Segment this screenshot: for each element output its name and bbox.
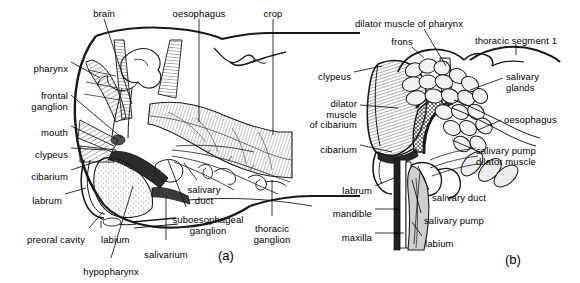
leader-frontal-ganglion bbox=[71, 95, 122, 138]
label-cibarium: cibarium bbox=[31, 172, 68, 183]
panel-tag-a: (a) bbox=[218, 248, 234, 263]
label-clypeus-b: clypeus bbox=[318, 72, 351, 83]
leader-frons bbox=[412, 47, 424, 58]
label-labrum: labrum bbox=[32, 196, 62, 207]
leader-mouth bbox=[71, 126, 114, 146]
leader-oesophagus-b bbox=[478, 120, 501, 130]
label-crop: crop bbox=[183, 9, 363, 20]
label-frontal-ganglion: frontal ganglion bbox=[31, 91, 68, 112]
panel-tag-b: (b) bbox=[505, 252, 521, 267]
leader-pharynx bbox=[71, 62, 100, 78]
leader-dilator-muscle-of-cibarium bbox=[360, 105, 398, 108]
label-salivary-duct: salivary duct bbox=[114, 185, 294, 206]
label-cibarium-b: cibarium bbox=[320, 145, 357, 156]
label-salivary-glands: salivary glands bbox=[506, 72, 539, 93]
leader-clypeus bbox=[71, 148, 106, 150]
label-labium-b: labium bbox=[425, 239, 454, 250]
label-maxilla: maxilla bbox=[342, 233, 372, 244]
label-hypopharynx: hypopharynx bbox=[21, 267, 201, 278]
label-salivary-duct-b: salivary duct bbox=[432, 193, 486, 204]
label-mandible: mandible bbox=[333, 209, 372, 220]
figure-root: brainoesophaguscroppharynxfrontal gangli… bbox=[0, 0, 580, 283]
label-oesophagus-b: oesophagus bbox=[504, 115, 557, 126]
leader-labrum-b bbox=[375, 178, 394, 186]
leader-dilator-muscle-of-pharynx bbox=[424, 29, 446, 66]
label-labrum-b: labrum bbox=[342, 186, 372, 197]
label-salivary-pump: salivary pump bbox=[424, 216, 484, 227]
leader-salivary-duct-b bbox=[418, 166, 429, 190]
label-clypeus: clypeus bbox=[35, 150, 68, 161]
label-dilator-muscle-of-cibarium: dilator muscle of cibarium bbox=[309, 99, 357, 131]
label-salivary-pump-dilator-muscle: salivary pump dilator muscle bbox=[476, 146, 536, 167]
leader-clypeus-b bbox=[354, 66, 382, 72]
leader-salivary-duct-a bbox=[184, 163, 197, 180]
label-preoral-cavity: preoral cavity bbox=[27, 235, 85, 246]
leader-cibarium bbox=[71, 157, 110, 170]
leader-salivary-pump bbox=[412, 180, 421, 213]
leader-labrum bbox=[65, 188, 86, 194]
leader-cibarium-b bbox=[360, 145, 392, 152]
leader-salivary-pump-dilator-muscle bbox=[452, 140, 473, 149]
leader-labium-b bbox=[412, 222, 422, 236]
label-thoracic-ganglion: thoracic ganglion bbox=[182, 224, 362, 245]
leader-salivary-glands bbox=[470, 78, 503, 90]
label-labium: labium bbox=[101, 235, 130, 246]
label-thoracic-segment-1: thoracic segment 1 bbox=[426, 36, 580, 47]
label-pharynx: pharynx bbox=[34, 64, 69, 75]
label-mouth: mouth bbox=[41, 128, 68, 139]
leader-brain bbox=[104, 19, 132, 104]
label-dilator-muscle-of-pharynx: dilator muscle of pharynx bbox=[319, 19, 499, 30]
